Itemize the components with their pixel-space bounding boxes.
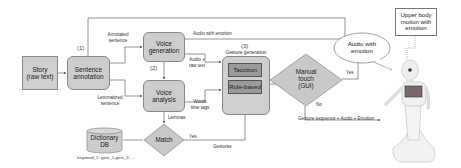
lemmatized-sentence-label: Lemmatized sentence (92, 95, 128, 106)
manual-touch-line2: touch (286, 75, 326, 82)
bubble-line2: emotion (340, 47, 384, 54)
story-label-line2: (raw text) (26, 73, 53, 80)
manual-yes-label: Yes (346, 70, 354, 76)
rule-based-label: Rule-based (229, 83, 261, 90)
dictionary-label: Dictionary DB (87, 134, 122, 148)
manual-touch-label: Manual touch (GUI) (286, 68, 326, 90)
upper-body-line3: emotion (405, 25, 426, 32)
tacotron-box: Tacotron (228, 63, 262, 77)
sentence-annotation-line1: Sentence (75, 66, 102, 73)
step-2-label: (2) (150, 65, 157, 71)
upper-body-line1: Upper body (400, 12, 431, 19)
gestures-label: Gestures (213, 144, 232, 150)
step-3-label: (3) (241, 43, 248, 49)
manual-no-label: No (316, 102, 322, 108)
audio-raw-text-label: Audio + raw text (186, 57, 208, 68)
voice-generation-box: Voice generation (143, 32, 185, 62)
output-label: Gesture sequence + Audio + Emotion (298, 116, 374, 122)
voice-generation-line2: generation (149, 47, 180, 54)
match-label: Match (146, 136, 182, 143)
tacotron-label: Tacotron (233, 66, 257, 73)
dictionary-line1: Dictionary (87, 134, 122, 141)
manual-touch-line1: Manual (286, 68, 326, 75)
dictionary-line2: DB (87, 141, 122, 148)
voice-analysis-line1: Voice (156, 89, 172, 96)
dictionary-caption: keyword_1: gest_1,gest_2, ... (66, 155, 146, 160)
audio-raw-line2: raw text (186, 63, 208, 69)
bubble-line1: Audio with (340, 40, 384, 47)
voice-analysis-line2: analysis (152, 96, 175, 103)
audio-with-emotion-label: Audio with emotion (193, 31, 232, 37)
voice-analysis-box: Voice analysis (143, 80, 185, 112)
speech-bubble-text: Audio with emotion (340, 40, 384, 54)
manual-touch-line3: (GUI) (286, 82, 326, 89)
lemmatized-line2: sentence (92, 101, 128, 107)
upper-body-note: Upper body motion with emotion (395, 8, 437, 36)
sentence-annotation-line2: annotation (73, 73, 103, 80)
words-time-tags-label: Words time tags (189, 99, 211, 110)
robot-illustration (386, 60, 435, 162)
upper-body-line2: motion with (401, 19, 431, 26)
voice-generation-line1: Voice (156, 40, 172, 47)
step-1-label: (1) (77, 45, 84, 51)
lemmas-label: Lemmas (168, 115, 186, 121)
gesture-generation-label: Gesture generation (219, 50, 273, 56)
story-label-line1: Story (32, 66, 47, 73)
story-box: Story (raw text) (22, 56, 58, 90)
annotated-sentence-label: Annotated sentence (102, 32, 134, 43)
rule-based-box: Rule-based (228, 80, 262, 94)
words-line2: time tags (189, 105, 211, 111)
sentence-annotation-box: Sentence annotation (67, 56, 110, 90)
match-yes-label: Yes (189, 134, 197, 140)
annotated-line2: sentence (102, 38, 134, 44)
